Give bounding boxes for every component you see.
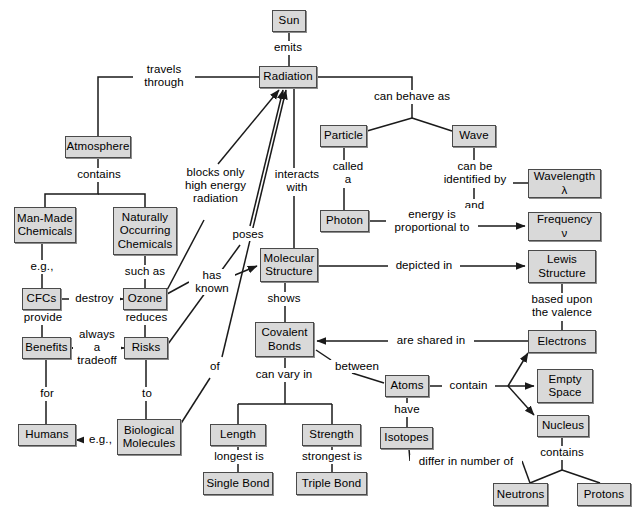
edge-contain-electrons bbox=[508, 353, 528, 386]
node-lewis-structure[interactable]: Lewis Structure bbox=[528, 250, 596, 283]
edge-label-always-a-tradeoff: always a tradeoff bbox=[73, 328, 121, 368]
edge-canbehave-wave bbox=[412, 118, 452, 131]
node-benefits[interactable]: Benefits bbox=[22, 337, 71, 359]
edge-label-called-a: called a bbox=[327, 160, 369, 186]
node-nucleus[interactable]: Nucleus bbox=[537, 415, 589, 437]
edge-contains-natural bbox=[98, 194, 145, 207]
edge-label-have: have bbox=[388, 403, 426, 416]
edge-label-can-behave-as: can behave as bbox=[366, 90, 458, 103]
node-strength[interactable]: Strength bbox=[302, 424, 361, 446]
node-empty-space[interactable]: Empty Space bbox=[537, 369, 593, 403]
edge-label-differ-in-number-of: differ in number of bbox=[410, 455, 522, 468]
node-radiation[interactable]: Radiation bbox=[259, 66, 317, 88]
edge-of-radiation bbox=[222, 90, 286, 357]
edge-biomol-of bbox=[180, 378, 210, 425]
edge-label-destroy: destroy bbox=[69, 292, 120, 305]
edge-contain-nucleus bbox=[508, 386, 534, 415]
node-sun[interactable]: Sun bbox=[272, 10, 306, 32]
edge-label-longest-is: longest is bbox=[208, 450, 270, 463]
node-isotopes[interactable]: Isotopes bbox=[380, 427, 433, 449]
node-photon[interactable]: Photon bbox=[320, 210, 369, 232]
node-man-made-chemicals[interactable]: Man-Made Chemicals bbox=[14, 207, 76, 243]
edge-blocks-radiation bbox=[218, 90, 279, 164]
edge-between-atoms bbox=[352, 373, 384, 383]
node-single-bond[interactable]: Single Bond bbox=[203, 472, 273, 495]
edge-covalent-between bbox=[316, 350, 331, 360]
edge-contains-neutrons bbox=[530, 470, 562, 483]
edge-label-contain: contain bbox=[442, 379, 495, 392]
node-wave[interactable]: Wave bbox=[452, 125, 496, 147]
node-protons[interactable]: Protons bbox=[577, 483, 631, 506]
node-neutrons[interactable]: Neutrons bbox=[493, 483, 548, 506]
concept-map-canvas: Sun Radiation Atmosphere Man-Made Chemic… bbox=[0, 0, 636, 518]
node-atmosphere[interactable]: Atmosphere bbox=[65, 136, 131, 158]
edge-differ-neutrons bbox=[522, 461, 530, 483]
edge-label-travels-through: travels through bbox=[133, 63, 195, 89]
edge-label-provide: provide bbox=[16, 311, 70, 324]
edge-label-can-be-identified-by: can be identified by bbox=[437, 160, 513, 186]
edge-poses-radiation bbox=[250, 90, 283, 226]
node-ozone[interactable]: Ozone bbox=[123, 288, 167, 310]
edge-canbehave-particle bbox=[367, 118, 412, 131]
edge-label-contains-nucleus: contains bbox=[533, 446, 591, 459]
node-covalent-bonds[interactable]: Covalent Bonds bbox=[255, 322, 314, 357]
edge-label-between: between bbox=[329, 360, 385, 373]
node-wavelength[interactable]: Wavelength λ bbox=[528, 169, 601, 198]
node-electrons[interactable]: Electrons bbox=[528, 330, 596, 353]
edge-label-emits: emits bbox=[263, 41, 313, 54]
node-cfcs[interactable]: CFCs bbox=[22, 288, 61, 310]
edge-label-eg-cfcs: e.g., bbox=[23, 260, 61, 273]
edge-label-contains-atmosphere: contains bbox=[70, 168, 128, 181]
edge-label-such-as: such as bbox=[118, 265, 172, 278]
edge-contains-manmade bbox=[45, 182, 98, 207]
node-particle[interactable]: Particle bbox=[320, 125, 367, 147]
edge-label-reduces: reduces bbox=[119, 311, 174, 324]
node-naturally-occurring-chemicals[interactable]: Naturally Occurring Chemicals bbox=[113, 207, 177, 255]
edge-radiation-canbehave bbox=[317, 77, 412, 90]
node-length[interactable]: Length bbox=[210, 424, 266, 446]
edge-label-energy-is-proportional-to: energy is proportional to bbox=[386, 208, 478, 234]
node-atoms[interactable]: Atoms bbox=[385, 375, 429, 397]
edge-label-are-shared-in: are shared in bbox=[388, 334, 474, 347]
edge-label-based-upon-the-valence: based upon the valence bbox=[523, 293, 601, 319]
node-humans[interactable]: Humans bbox=[18, 424, 76, 446]
edge-label-has-known: has known bbox=[189, 269, 235, 295]
edge-label-can-vary-in: can vary in bbox=[249, 368, 319, 381]
edge-travels-atmosphere bbox=[98, 77, 133, 136]
edge-label-shows: shows bbox=[261, 292, 307, 305]
edge-label-strongest-is: strongest is bbox=[296, 450, 368, 463]
edge-label-depicted-in: depicted in bbox=[388, 259, 460, 272]
edge-label-interacts-with: interacts with bbox=[269, 168, 325, 194]
node-molecular-structure[interactable]: Molecular Structure bbox=[260, 248, 318, 282]
edge-label-eg-humans: e.g., bbox=[84, 433, 117, 446]
edge-label-to: to bbox=[137, 387, 157, 400]
node-biological-molecules[interactable]: Biological Molecules bbox=[117, 419, 181, 455]
node-triple-bond[interactable]: Triple Bond bbox=[296, 472, 367, 495]
node-frequency[interactable]: Frequency ν bbox=[528, 212, 601, 241]
edge-label-of: of bbox=[206, 360, 224, 373]
edge-label-for: for bbox=[34, 387, 60, 400]
edge-contains-protons bbox=[562, 470, 600, 483]
edge-label-poses: poses bbox=[227, 228, 269, 241]
edge-ozone-hasknown bbox=[167, 282, 189, 294]
node-risks[interactable]: Risks bbox=[124, 337, 168, 359]
edge-label-blocks-only-high-energy-radiation: blocks only high energy radiation bbox=[178, 166, 253, 206]
